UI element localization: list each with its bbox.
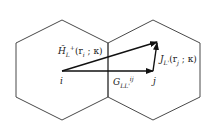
h-args-tail: ; κ) — [85, 46, 103, 56]
g-subscript: LL' — [120, 82, 130, 89]
left-hexagon-cell — [16, 20, 108, 120]
g-superscript: ij — [130, 75, 134, 82]
j-args-tail: ; κ) — [179, 54, 197, 64]
site-i-label: i — [60, 77, 63, 86]
site-j-label: j — [153, 77, 156, 86]
h-symbol: H̃ — [58, 46, 66, 56]
j-arrow — [153, 43, 157, 71]
h-label: H̃L+(ri ; κ) — [58, 45, 103, 58]
j-args: (r — [169, 54, 177, 64]
j-label: JL'(rj ; κ) — [160, 55, 197, 66]
right-hexagon-cell — [108, 20, 200, 120]
g-label: GLL'ij — [113, 76, 134, 89]
h-subscript: L — [66, 51, 70, 58]
h-args: (r — [75, 46, 83, 56]
